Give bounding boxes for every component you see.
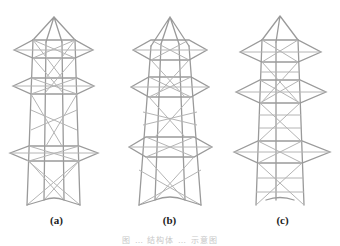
tower-panel-b: (b) [113, 0, 226, 215]
panel-label-b: (b) [113, 214, 226, 226]
figure-caption: 图 … 结构体 … 示意图 [0, 234, 340, 245]
panel-label-c: (c) [226, 214, 339, 226]
tower-panel-c: (c) [226, 0, 339, 215]
panel-label-a: (a) [0, 214, 113, 226]
tower-panel-a: (a) [0, 0, 113, 215]
lattice-tower-b [113, 0, 226, 215]
lattice-tower-c [226, 0, 339, 215]
lattice-tower-a [0, 0, 113, 215]
